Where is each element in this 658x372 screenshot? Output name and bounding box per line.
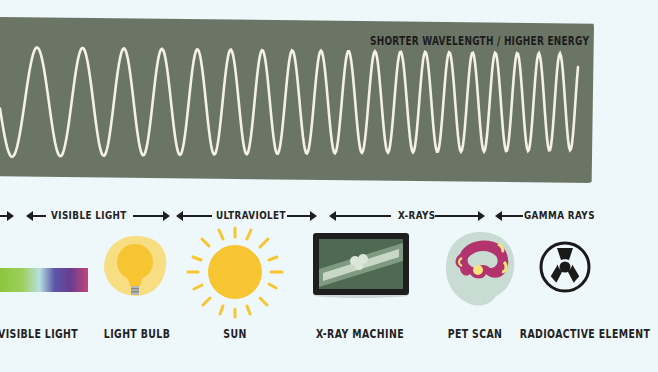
band-gamma-rays: GAMMA RAYS: [524, 209, 595, 222]
arrow-right: [287, 215, 313, 217]
label-light-bulb: LIGHT BULB: [98, 327, 176, 341]
spectrum-bands: VISIBLE LIGHT ULTRAVIOLET X-RAYS GAMMA R…: [0, 205, 658, 225]
pet-scan-brain-icon: [440, 228, 520, 310]
band-visible-light: VISIBLE LIGHT: [51, 209, 127, 222]
label-radioactive-element: RADIOACTIVE ELEMENT: [519, 327, 652, 341]
label-visible-light: VISIBLE LIGHT: [0, 327, 76, 341]
arrow-left: [30, 215, 46, 217]
arrow-right: [133, 215, 166, 217]
arrow-right: [0, 215, 10, 217]
arrow-left: [180, 215, 212, 217]
arrow-left: [333, 215, 391, 217]
panel-title: SHORTER WAVELENGTH / HIGHER ENERGY: [370, 34, 589, 48]
light-bulb-icon: [100, 232, 172, 312]
label-sun: SUN: [196, 327, 274, 341]
sun-icon: [185, 225, 285, 320]
band-x-rays: X-RAYS: [398, 209, 436, 222]
label-xray-machine: X-RAY MACHINE: [309, 327, 410, 341]
arrow-right: [435, 215, 481, 217]
radiation-icon: [538, 240, 592, 294]
arrow-left: [499, 215, 523, 217]
xray-machine-icon: [311, 231, 411, 299]
color-spectrum-icon: [0, 268, 88, 292]
label-pet-scan: PET SCAN: [436, 327, 514, 341]
band-ultraviolet: ULTRAVIOLET: [216, 209, 286, 222]
